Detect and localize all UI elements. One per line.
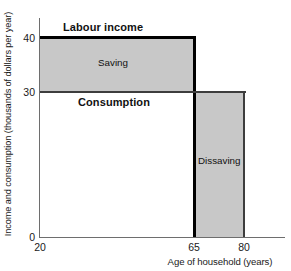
labour-income-line (39, 36, 196, 39)
life-cycle-saving-chart: Income and consumption (thousands of dol… (0, 0, 291, 271)
y-tick-label-30: 30 (9, 86, 35, 98)
consumption-line-working-years (39, 91, 194, 93)
annotation-labour-income: Labour income (63, 21, 143, 33)
labour-income-retirement-drop-line (193, 36, 196, 238)
x-tick-label-20: 20 (25, 241, 55, 253)
y-axis-line (39, 18, 40, 238)
annotation-dissaving: Dissaving (198, 155, 240, 166)
x-tick-label-65: 65 (179, 241, 209, 253)
consumption-line-retirement-years (194, 91, 246, 93)
dissaving-region-right-edge (243, 91, 245, 238)
y-tick-label-40: 40 (9, 32, 35, 44)
x-axis-title: Age of household (years) (150, 255, 290, 268)
annotation-consumption: Consumption (78, 96, 150, 108)
x-axis-line (39, 237, 285, 238)
x-tick-label-80: 80 (229, 241, 259, 253)
annotation-saving: Saving (98, 57, 128, 68)
